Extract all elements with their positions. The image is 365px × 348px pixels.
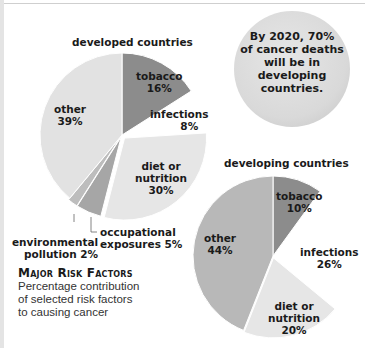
label-value: 8% bbox=[150, 120, 209, 132]
label-text-2: nutrition bbox=[135, 172, 187, 184]
callout-line: countries. bbox=[236, 82, 348, 95]
label-text: other bbox=[204, 232, 236, 244]
label-value: exposures 5% bbox=[100, 238, 182, 250]
label-text: other bbox=[54, 103, 86, 115]
caption: Major Risk Factors Percentage contributi… bbox=[18, 266, 198, 319]
label-developed-infections: infections 8% bbox=[150, 108, 209, 132]
label-value: 26% bbox=[300, 258, 359, 270]
label-value: pollution 2% bbox=[12, 248, 98, 260]
label-developing-diet: diet or nutrition 20% bbox=[268, 300, 320, 336]
label-value: 30% bbox=[135, 184, 187, 196]
label-developing-tobacco: tobacco 10% bbox=[276, 190, 323, 214]
label-text: infections bbox=[300, 246, 359, 258]
label-text: environmental bbox=[12, 236, 98, 248]
callout-line: developing bbox=[236, 69, 348, 82]
label-value: 10% bbox=[276, 202, 323, 214]
callout-line: of cancer deaths bbox=[236, 43, 348, 56]
label-value: 39% bbox=[54, 115, 86, 127]
label-developed-other: other 39% bbox=[54, 103, 86, 127]
label-developing-infections: infections 26% bbox=[300, 246, 359, 270]
chart-title-developed: developed countries bbox=[72, 36, 193, 48]
caption-description-line: of selected risk factors bbox=[18, 293, 198, 306]
chart-title-developing: developing countries bbox=[224, 157, 349, 169]
label-developed-environmental: environmental pollution 2% bbox=[12, 236, 98, 260]
leader-line-occupational bbox=[91, 217, 97, 232]
label-text: tobacco bbox=[136, 70, 183, 82]
label-value: 44% bbox=[204, 244, 236, 256]
label-developed-tobacco: tobacco 16% bbox=[136, 70, 183, 94]
callout-line: By 2020, 70% bbox=[236, 30, 348, 43]
callout-line: will be in bbox=[236, 56, 348, 69]
caption-description-line: to causing cancer bbox=[18, 306, 198, 319]
label-text: occupational bbox=[100, 226, 182, 238]
label-developed-occupational: occupational exposures 5% bbox=[100, 226, 182, 250]
label-text-2: nutrition bbox=[268, 312, 320, 324]
slice-tobacco bbox=[273, 176, 320, 256]
label-developing-other: other 44% bbox=[204, 232, 236, 256]
caption-heading: Major Risk Factors bbox=[18, 266, 198, 280]
callout-text: By 2020, 70% of cancer deaths will be in… bbox=[236, 30, 348, 95]
label-developed-diet: diet or nutrition 30% bbox=[135, 160, 187, 196]
label-value: 20% bbox=[268, 324, 320, 336]
label-text: diet or bbox=[268, 300, 320, 312]
label-text: infections bbox=[150, 108, 209, 120]
label-value: 16% bbox=[136, 82, 183, 94]
label-text: diet or bbox=[135, 160, 187, 172]
caption-description-line: Percentage contribution bbox=[18, 280, 198, 293]
label-text: tobacco bbox=[276, 190, 323, 202]
